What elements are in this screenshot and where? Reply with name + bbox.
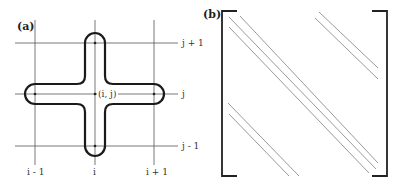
panel-a: (a) (i, j) j + 1 j j - 1 i - 1 i i + 1	[15, 20, 204, 177]
diagram-canvas: (a) (i, j) j + 1 j j - 1 i - 1 i i + 1 (…	[0, 0, 403, 185]
panel-a-label: (a)	[17, 20, 35, 33]
lower-main-diagonal	[229, 27, 369, 173]
col-label-i-plus-1: i + 1	[146, 167, 168, 177]
upper-main-diagonal	[240, 16, 378, 163]
col-label-i-minus-1: i - 1	[27, 167, 44, 177]
stencil-points	[34, 42, 156, 148]
panel-b: (b)	[203, 8, 387, 176]
main-diagonal	[229, 17, 376, 169]
row-label-j: j	[181, 89, 185, 99]
upper-off-diagonal-2	[315, 18, 378, 79]
center-label: (i, j)	[98, 89, 116, 99]
row-label-j-plus-1: j + 1	[181, 38, 204, 48]
lower-off-diagonal-1	[228, 103, 299, 176]
panel-b-label: (b)	[203, 8, 221, 21]
upper-off-diagonal-1	[319, 12, 378, 68]
col-label-i: i	[93, 167, 96, 177]
left-bracket	[222, 11, 237, 176]
lower-off-diagonal-2	[229, 114, 289, 176]
right-bracket	[372, 11, 387, 176]
row-label-j-minus-1: j - 1	[181, 141, 199, 151]
